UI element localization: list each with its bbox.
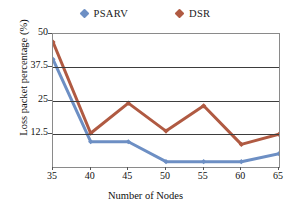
y-tick-label: 12.5 xyxy=(8,126,48,137)
plot-area xyxy=(52,33,280,168)
x-tick-mark xyxy=(203,167,204,170)
diamond-marker-icon xyxy=(175,8,185,18)
y-tick-label: 25 xyxy=(8,93,48,104)
x-tick-label: 60 xyxy=(225,170,255,181)
x-tick-mark xyxy=(90,167,91,170)
x-tick-label: 55 xyxy=(188,170,218,181)
series-line-psarv xyxy=(53,59,279,161)
legend-entry-dsr: DSR xyxy=(176,8,210,19)
x-axis-ticks: 35404550556065 xyxy=(52,170,280,186)
x-tick-label: 40 xyxy=(75,170,105,181)
x-tick-mark xyxy=(127,167,128,170)
y-tick-label: 37.5 xyxy=(8,59,48,70)
diamond-marker-icon xyxy=(79,8,89,18)
x-tick-label: 35 xyxy=(37,170,67,181)
data-point-marker xyxy=(201,159,206,164)
chart-legend: PSARV DSR xyxy=(0,4,291,22)
legend-label-dsr: DSR xyxy=(189,8,210,19)
y-axis-ticks: 12.52537.550 xyxy=(4,33,48,168)
x-tick-mark xyxy=(165,167,166,170)
x-tick-mark xyxy=(52,167,53,170)
x-tick-label: 50 xyxy=(150,170,180,181)
loss-packet-percentage-chart: PSARV DSR Loss packet percentage (%) 12.… xyxy=(0,0,291,211)
legend-entry-psarv: PSARV xyxy=(81,8,129,19)
y-tick-label: 50 xyxy=(8,26,48,37)
x-tick-label: 65 xyxy=(263,170,291,181)
x-tick-mark xyxy=(240,167,241,170)
gridline xyxy=(53,67,279,68)
x-axis-title: Number of Nodes xyxy=(0,190,291,201)
legend-label-psarv: PSARV xyxy=(94,8,129,19)
x-tick-label: 45 xyxy=(112,170,142,181)
x-tick-mark xyxy=(278,167,279,170)
gridline xyxy=(53,101,279,102)
gridline xyxy=(53,134,279,135)
